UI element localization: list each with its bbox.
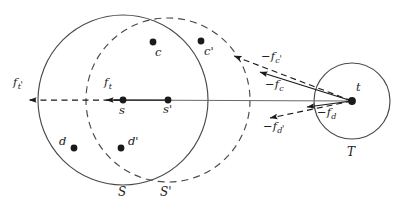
vector-minus-f-c-prime [234, 56, 352, 101]
point-d-prime [118, 145, 125, 152]
minus-sign: − [263, 119, 273, 133]
label-point-s-prime: s' [163, 104, 172, 116]
label-set-S-prime: S' [160, 186, 172, 198]
label-point-c: c [155, 47, 161, 59]
label-point-s: s [119, 105, 125, 117]
figure-canvas: c c' s s' d d' t ft' ft −fc' −fc −fd −fd… [0, 0, 406, 210]
label-point-t: t [356, 82, 361, 94]
prime-mark: ' [282, 124, 284, 134]
label-vector-minus-f-d-prime: −fd' [263, 121, 284, 133]
subscript-t: t [109, 82, 112, 91]
subscript-c: c [279, 84, 283, 93]
label-point-c-prime: c' [204, 46, 214, 58]
minus-sign: − [317, 105, 327, 119]
label-vector-minus-f-c-prime: −fc' [261, 51, 282, 63]
label-point-d: d [59, 136, 66, 148]
prime-mark: ' [20, 80, 22, 90]
label-point-d-prime: d' [128, 136, 139, 148]
prime-mark: ' [279, 54, 281, 64]
label-vector-minus-f-d: −fd [317, 107, 336, 119]
label-set-S: S [118, 186, 126, 198]
point-t [348, 97, 356, 105]
label-set-T: T [347, 146, 355, 158]
vector-minus-f-d-prime [270, 101, 352, 118]
label-vector-f-t-prime: ft' [13, 77, 23, 89]
subscript-d: d [331, 112, 336, 121]
label-vector-f-t: ft [104, 77, 111, 89]
label-vector-minus-f-c: −fc [265, 79, 283, 91]
diagram-svg [0, 0, 406, 210]
minus-sign: − [261, 49, 271, 63]
minus-sign: − [265, 77, 275, 91]
point-d [71, 145, 78, 152]
